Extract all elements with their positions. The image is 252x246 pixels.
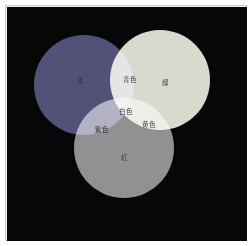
figure-frame: 青 緑 紅 青色 紫色 黄色 白色: [5, 5, 247, 241]
venn-diagram-canvas: 青 緑 紅 青色 紫色 黄色 白色: [7, 7, 247, 241]
venn-circle-red: [74, 98, 174, 198]
